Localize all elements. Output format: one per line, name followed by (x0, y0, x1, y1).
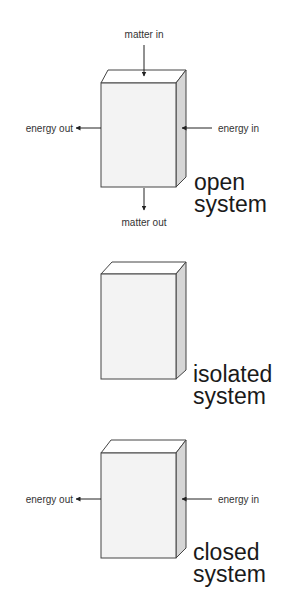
box-icon (101, 70, 186, 187)
systems-diagram: matter in matter out energy out energy i… (0, 0, 285, 606)
matter-out-label: matter out (121, 217, 166, 228)
energy-in-label: energy in (218, 494, 259, 505)
closed-system-title-line2: system (193, 561, 266, 587)
isolated-system-panel: isolated system (101, 262, 272, 409)
open-system-panel: matter in matter out energy out energy i… (26, 29, 267, 228)
open-system-title-line2: system (194, 191, 267, 217)
energy-out-label: energy out (26, 123, 73, 134)
box-icon (101, 262, 186, 379)
box-icon (101, 440, 186, 558)
energy-in-label: energy in (218, 123, 259, 134)
isolated-system-title-line2: system (193, 383, 266, 409)
matter-in-label: matter in (125, 29, 164, 40)
energy-out-label: energy out (26, 494, 73, 505)
closed-system-panel: energy out energy in closed system (26, 440, 266, 587)
